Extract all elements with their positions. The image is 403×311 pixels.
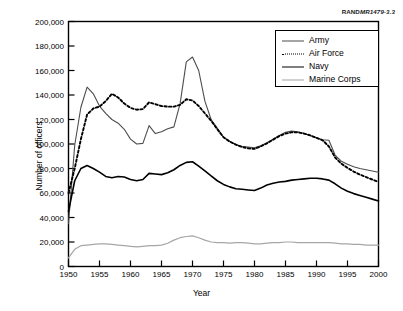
legend-item-army: Army (276, 34, 378, 47)
legend-item-navy: Navy (276, 60, 378, 73)
legend-item-air-force: Air Force (276, 47, 378, 60)
legend-swatch-air-force (282, 49, 304, 59)
chart-legend: Army Air Force Navy Marine Corps (275, 30, 379, 87)
legend-swatch-marine-corps (282, 75, 304, 85)
legend-label-army: Army (309, 36, 329, 45)
legend-label-air-force: Air Force (309, 49, 344, 58)
legend-swatch-army (282, 36, 304, 46)
chart-figure: RANDMR1479-3.3 Number of officers Year 0… (0, 0, 403, 311)
legend-item-marine-corps: Marine Corps (276, 73, 378, 86)
legend-label-marine-corps: Marine Corps (309, 75, 361, 84)
legend-swatch-navy (282, 62, 304, 72)
legend-label-navy: Navy (309, 62, 329, 71)
